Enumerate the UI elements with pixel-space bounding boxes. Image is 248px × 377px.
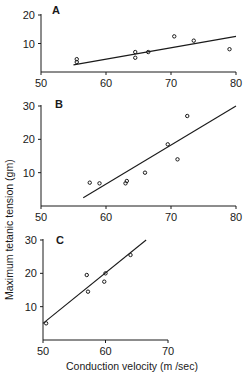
data-point [134,50,137,53]
x-tick-label: 80 [230,211,242,223]
panel-b-label: B [55,98,63,110]
y-tick-label: 20 [25,267,37,279]
x-tick-label: 80 [230,77,242,89]
x-axis-label: Conduction velocity (m /sec) [66,360,198,372]
regression-line [43,240,146,323]
x-tick-label: 70 [165,211,177,223]
data-point [85,273,88,276]
x-tick-label: 60 [100,77,112,89]
data-point [186,114,189,117]
regression-line [83,106,236,198]
data-point [192,39,195,42]
panel-b: 50607080102030 [23,100,242,223]
y-tick-label: 30 [25,234,37,246]
x-tick-label: 50 [35,77,47,89]
regression-line [74,36,237,65]
x-tick-label: 70 [162,345,174,357]
x-tick-label: 60 [99,345,111,357]
y-tick-label: 10 [25,301,37,313]
panel-a-label: A [52,4,60,16]
y-tick-label: 10 [23,38,35,50]
data-point [98,182,101,185]
y-tick-label: 30 [23,100,35,112]
x-tick-label: 70 [165,77,177,89]
data-point [173,35,176,38]
x-tick-label: 50 [37,345,49,357]
panel-c: 506070102030 [25,234,174,357]
x-tick-label: 50 [35,211,47,223]
data-point [166,143,169,146]
y-tick-label: 10 [23,167,35,179]
data-point [88,181,91,184]
data-point [143,171,146,174]
data-point [134,56,137,59]
figure: 506070801020 50607080102030 506070102030… [0,0,248,377]
y-axis-label: Maximum tetanic tension (gm) [3,159,15,300]
y-tick-label: 20 [23,9,35,21]
data-point [103,280,106,283]
data-point [129,253,132,256]
data-point [228,48,231,51]
data-point [44,322,47,325]
data-point [86,290,89,293]
panel-c-label: C [56,234,64,246]
data-point [176,158,179,161]
y-tick-label: 20 [23,133,35,145]
panel-a: 506070801020 [23,9,242,89]
x-tick-label: 60 [100,211,112,223]
